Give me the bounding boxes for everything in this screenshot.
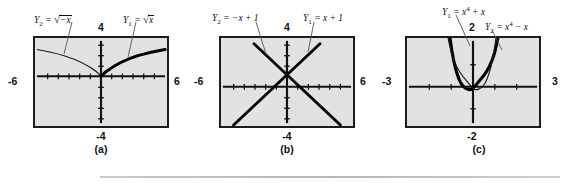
panel-c-range-top: 2: [469, 22, 475, 33]
panel-a-range-right: 6: [174, 76, 180, 87]
panel-a-label-y1: Y1 = √x: [123, 14, 154, 28]
footer-divider: [100, 176, 560, 178]
panel-b: Y2 = −x + 1 Y1 = x + 1 4 -4 -6 6: [186, 0, 380, 160]
panel-c-label-y2: Y2 = x4 − x: [485, 21, 528, 35]
panel-b-line-y2: [254, 44, 340, 125]
panel-a-range-left: -6: [8, 76, 17, 87]
panel-c-range-right: 3: [552, 76, 558, 87]
panel-a-screen: [33, 36, 169, 128]
panel-c-range-bottom: -2: [467, 131, 476, 142]
panel-a: Y2 = √−x Y1 = √x 4 -4 -6 6: [0, 0, 194, 160]
panel-c-caption: (c): [473, 144, 486, 155]
panel-a-range-bottom: -4: [96, 131, 105, 142]
panel-c-plot: [407, 38, 539, 126]
panel-a-plot: [35, 38, 167, 126]
panel-b-range-top: 4: [284, 22, 290, 33]
panel-a-label-y2: Y2 = √−x: [34, 14, 72, 28]
graphing-calculator-figure: Y2 = √−x Y1 = √x 4 -4 -6 6: [0, 0, 584, 185]
panel-b-line-y1: [234, 44, 320, 125]
panel-b-range-right: 6: [360, 76, 366, 87]
panel-c-label-y1: Y1 = x4 + x: [442, 6, 485, 20]
panel-a-range-top: 4: [98, 22, 104, 33]
panel-c-range-left: -3: [382, 76, 391, 87]
panel-b-plot: [221, 38, 353, 126]
panel-b-axes: [223, 41, 351, 123]
panel-b-range-left: -6: [194, 76, 203, 87]
panel-b-label-y2: Y2 = −x + 1: [212, 14, 259, 26]
panel-b-caption: (b): [280, 144, 293, 155]
panel-c-screen: [405, 36, 541, 128]
panel-c-axes: [409, 41, 537, 123]
panel-a-caption: (a): [95, 144, 108, 155]
panel-a-curve-y2: [37, 49, 101, 76]
panel-b-screen: [219, 36, 355, 128]
panel-a-curve-y1: [101, 49, 165, 76]
panel-b-label-y1: Y1 = x + 1: [303, 14, 343, 26]
panel-b-range-bottom: -4: [282, 131, 291, 142]
panel-c: Y1 = x4 + x Y2 = x4 − x 2 -2 -3 3: [378, 0, 572, 160]
